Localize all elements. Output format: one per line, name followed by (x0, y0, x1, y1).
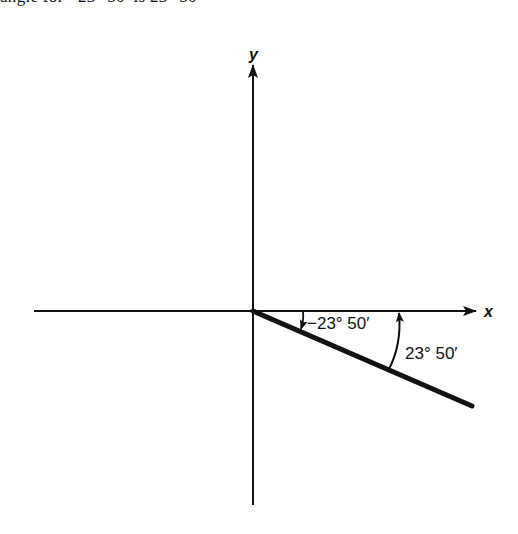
reference-angle-arc-icon (388, 313, 400, 371)
y-axis-label: y (248, 46, 259, 63)
negative-angle-arc-icon (301, 312, 303, 329)
reference-angle-label: 23° 50′ (405, 344, 458, 363)
negative-angle-label: −23° 50′ (307, 314, 369, 333)
x-axis-label: x (483, 303, 494, 320)
angle-diagram: x y −23° 50′ 23° 50′ (0, 0, 518, 534)
